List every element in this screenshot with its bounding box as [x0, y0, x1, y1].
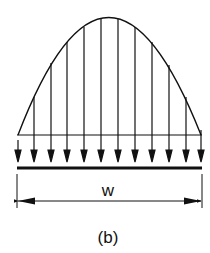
dimension-arrow-right: [184, 198, 201, 205]
load-arrows: [15, 19, 204, 162]
load-arrow-6: [98, 19, 104, 162]
parabolic-load-diagram: w (b): [0, 0, 210, 253]
dimension-arrow-left: [18, 198, 35, 205]
dimension-label: w: [101, 181, 115, 200]
load-arrow-8: [132, 27, 138, 162]
load-arrow-7: [115, 19, 121, 162]
load-arrow-3: [48, 63, 54, 162]
figure-label: (b): [98, 228, 119, 247]
load-arrow-9: [149, 42, 155, 162]
load-arrow-11: [183, 97, 189, 162]
load-arrow-4: [64, 42, 70, 162]
parabolic-load-curve: [18, 18, 201, 136]
load-arrow-2: [31, 97, 37, 162]
load-arrow-5: [81, 27, 87, 162]
load-arrow-1: [15, 140, 21, 162]
load-arrow-10: [166, 65, 172, 162]
